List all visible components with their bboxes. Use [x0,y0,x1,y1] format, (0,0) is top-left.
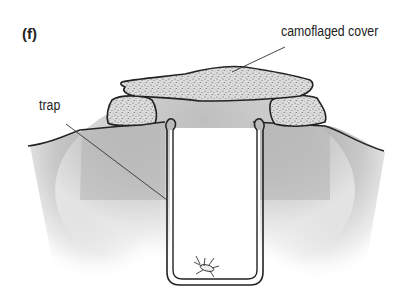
camouflaged-cover [121,67,313,101]
pitfall-trap-diagram [0,0,411,304]
trap-label: trap [39,97,60,113]
cover-leader-line [232,47,285,72]
stone-left [107,96,156,126]
cover-label: camoflaged cover [281,23,378,39]
panel-label: (f) [22,25,37,42]
trap-container [166,119,264,285]
stone-right [270,95,326,126]
